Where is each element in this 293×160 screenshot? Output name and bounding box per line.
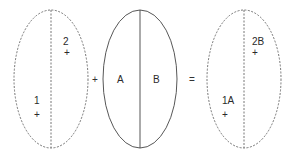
marker-2B: + — [252, 47, 258, 58]
equals-operator: = — [189, 74, 195, 85]
marker-2: + — [64, 47, 70, 58]
marker-1A: + — [222, 109, 228, 120]
label-2B: 2B — [252, 36, 265, 47]
left-ellipse-group: 2 + 1 + — [14, 10, 88, 148]
label-B: B — [153, 74, 160, 85]
label-1A: 1A — [222, 95, 235, 106]
diagram-canvas: 2 + 1 + + A B = 2B + 1A + — [0, 0, 293, 160]
marker-1: + — [34, 109, 40, 120]
right-ellipse-group: 2B + 1A + — [207, 10, 281, 148]
label-1: 1 — [34, 95, 40, 106]
label-A: A — [117, 74, 124, 85]
label-2: 2 — [63, 36, 69, 47]
plus-operator: + — [92, 74, 98, 85]
middle-ellipse-group: A B — [103, 10, 177, 148]
